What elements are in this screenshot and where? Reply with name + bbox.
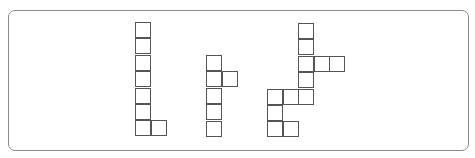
grid-cell: [298, 89, 314, 105]
grid-cell: [206, 71, 222, 87]
grid-cell: [135, 120, 151, 136]
grid-cell: [206, 121, 222, 137]
grid-cell: [151, 120, 167, 136]
grid-cell: [329, 56, 345, 72]
grid-cell: [298, 72, 314, 88]
grid-cell: [314, 56, 330, 72]
grid-cell: [135, 55, 151, 71]
grid-cell: [298, 39, 314, 55]
grid-cell: [267, 105, 283, 121]
grid-cell: [298, 23, 314, 39]
grid-cell: [267, 89, 283, 105]
grid-cell: [206, 88, 222, 104]
grid-cell: [135, 71, 151, 87]
grid-cell: [206, 55, 222, 71]
grid-cell: [267, 121, 283, 137]
grid-cell: [135, 88, 151, 104]
grid-cell: [135, 104, 151, 120]
grid-cell: [222, 71, 238, 87]
diagram-frame: [8, 10, 469, 151]
grid-cell: [206, 104, 222, 120]
grid-cell: [135, 22, 151, 38]
grid-cell: [135, 38, 151, 54]
grid-cell: [283, 89, 299, 105]
grid-cell: [283, 121, 299, 137]
grid-cell: [298, 56, 314, 72]
